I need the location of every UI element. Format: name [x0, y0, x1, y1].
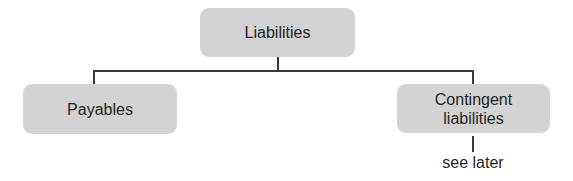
connector-root-stem — [277, 57, 279, 71]
connector-contingent-drop — [472, 70, 474, 85]
note-see-later: see later — [423, 154, 523, 172]
connector-note-stem — [472, 136, 474, 152]
node-liabilities: Liabilities — [200, 8, 355, 57]
connector-payables-drop — [93, 70, 95, 85]
connector-horizontal-bus — [93, 70, 474, 72]
node-payables-label: Payables — [67, 100, 133, 119]
note-see-later-text: see later — [442, 154, 503, 171]
node-contingent-liabilities-label: Contingent liabilities — [419, 90, 528, 128]
node-payables: Payables — [23, 84, 177, 134]
node-contingent-liabilities: Contingent liabilities — [397, 84, 550, 133]
node-liabilities-label: Liabilities — [245, 23, 311, 42]
